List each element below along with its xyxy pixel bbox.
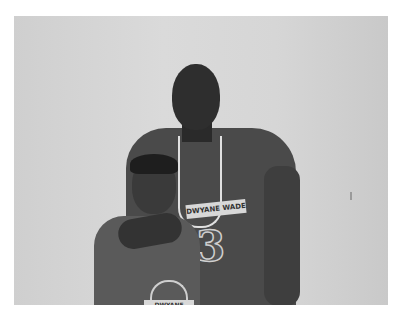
kid-hair <box>130 154 178 174</box>
adult-head <box>172 64 220 130</box>
photo: DWYANE WADE 3 DWYANE WADE <box>14 16 388 305</box>
adult-right-arm <box>264 166 300 305</box>
kid-shirt-text: DWYANE WADE <box>144 300 194 305</box>
wall-mark <box>350 192 352 200</box>
jersey-number: 3 <box>196 222 225 271</box>
